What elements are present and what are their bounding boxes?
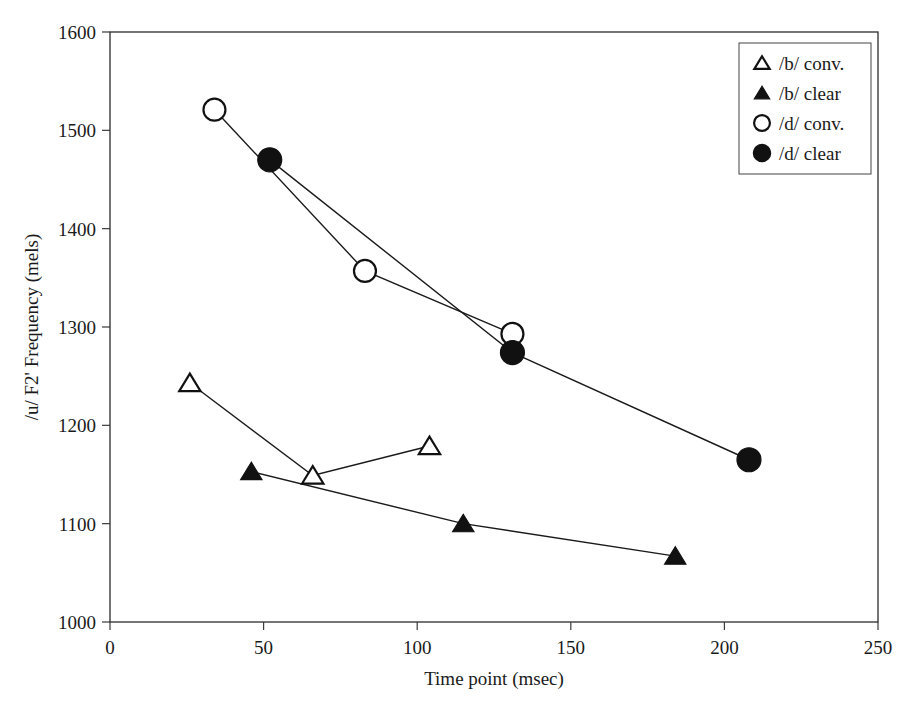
x-axis-ticks	[110, 622, 878, 630]
marker-open-triangle	[419, 437, 440, 454]
marker-filled-triangle	[453, 514, 474, 531]
marker-filled-triangle	[241, 462, 262, 479]
y-tick-label: 1100	[59, 514, 96, 535]
scatter-line-chart: 1000110012001300140015001600 05010015020…	[0, 0, 914, 701]
y-axis-tick-labels: 1000110012001300140015001600	[58, 22, 96, 633]
x-axis-title: Time point (msec)	[424, 668, 564, 690]
x-tick-label: 200	[710, 637, 739, 658]
y-axis-title: /u/ F2' Frequency (mels)	[21, 234, 43, 421]
series-line-bconv	[190, 383, 430, 475]
y-tick-label: 1400	[58, 219, 96, 240]
marker-filled-circle	[737, 448, 761, 472]
x-tick-label: 250	[864, 637, 893, 658]
x-tick-label: 100	[403, 637, 432, 658]
legend-label: /d/ conv.	[779, 113, 844, 134]
y-tick-label: 1300	[58, 317, 96, 338]
x-axis-tick-labels: 050100150200250	[105, 637, 892, 658]
y-tick-label: 1500	[58, 120, 96, 141]
marker-filled-circle	[258, 148, 282, 172]
marker-open-circle	[754, 115, 770, 131]
series-line-dclear	[270, 160, 749, 460]
marker-filled-circle	[500, 341, 524, 365]
chart-container: 1000110012001300140015001600 05010015020…	[0, 0, 914, 701]
marker-open-circle	[203, 99, 225, 121]
y-tick-label: 1000	[58, 612, 96, 633]
series-lines-group	[190, 110, 749, 556]
legend-label: /b/ clear	[779, 83, 841, 104]
series-markers-group	[179, 99, 761, 564]
x-tick-label: 150	[557, 637, 586, 658]
x-tick-label: 50	[254, 637, 273, 658]
marker-open-triangle	[179, 374, 200, 391]
y-axis-ticks	[102, 32, 110, 622]
y-tick-label: 1200	[58, 415, 96, 436]
chart-legend: /b/ conv./b/ clear/d/ conv./d/ clear	[739, 43, 871, 174]
series-line-dconv	[214, 110, 512, 334]
x-tick-label: 0	[105, 637, 115, 658]
y-tick-label: 1600	[58, 22, 96, 43]
legend-label: /b/ conv.	[779, 53, 844, 74]
marker-open-circle	[354, 260, 376, 282]
marker-open-triangle	[302, 466, 323, 483]
legend-label: /d/ clear	[779, 143, 841, 164]
marker-filled-circle	[753, 144, 770, 161]
